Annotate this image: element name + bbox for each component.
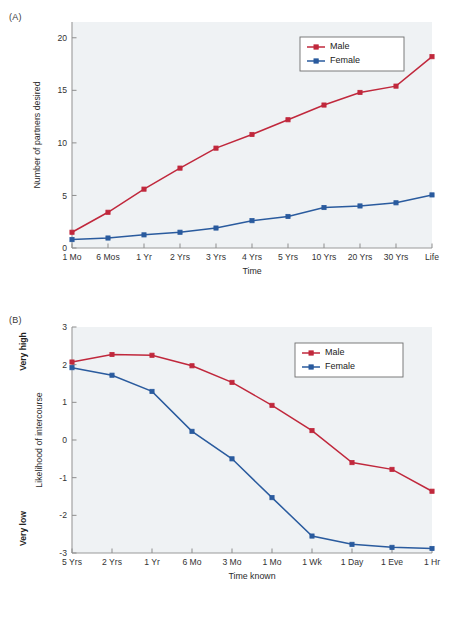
data-point-male: [430, 55, 434, 59]
data-point-male: [70, 360, 74, 364]
panel-a: (A) 051015201 Mo6 Mos1 Yr2 Yrs3 Yrs4 Yrs…: [0, 0, 449, 305]
data-point-male: [250, 132, 254, 136]
data-point-male: [358, 90, 362, 94]
y-tick-label: -2: [59, 510, 67, 520]
data-point-male: [70, 230, 74, 234]
legend-label-female: Female: [330, 55, 360, 65]
data-point-female: [150, 389, 154, 393]
y-tick-label: 5: [62, 191, 67, 201]
y-tick-label: -1: [59, 473, 67, 483]
data-point-male: [286, 118, 290, 122]
x-tick-label: 1 Yr: [144, 557, 160, 567]
data-point-female: [214, 226, 218, 230]
legend-label-female: Female: [325, 361, 355, 371]
panel-a-label: (A): [9, 12, 22, 22]
data-point-male: [390, 467, 394, 471]
y-tick-label: 0: [62, 435, 67, 445]
data-point-male: [214, 146, 218, 150]
chart-b-svg: 3210-1-2-35 Yrs2 Yrs1 Yr6 Mo3 Mo1 Mo1 Wk…: [0, 305, 449, 617]
data-point-male: [322, 103, 326, 107]
data-point-male: [350, 461, 354, 465]
y-tick-label: 2: [62, 360, 67, 370]
x-tick-label: 2 Yrs: [102, 557, 122, 567]
data-point-female: [110, 373, 114, 377]
data-point-male: [142, 187, 146, 191]
legend-box: [295, 343, 403, 377]
data-point-male: [106, 210, 110, 214]
data-point-female: [430, 546, 434, 550]
data-point-male: [394, 84, 398, 88]
data-point-female: [350, 542, 354, 546]
x-axis-title: Time known: [228, 571, 275, 581]
y-tick-label: 3: [62, 322, 67, 332]
data-point-male: [270, 403, 274, 407]
x-tick-label: Life: [425, 252, 439, 262]
data-point-male: [110, 352, 114, 356]
legend-marker-female: [309, 365, 313, 369]
y-anchor-high-label: Very high: [18, 332, 28, 371]
x-tick-label: 30 Yrs: [384, 252, 409, 262]
data-point-female: [250, 219, 254, 223]
data-point-female: [230, 457, 234, 461]
y-anchor-low-label: Very low: [18, 511, 28, 546]
x-tick-label: 1 Day: [341, 557, 364, 567]
data-point-male: [230, 380, 234, 384]
x-tick-label: 4 Yrs: [242, 252, 262, 262]
x-tick-label: 5 Yrs: [62, 557, 82, 567]
data-point-female: [70, 237, 74, 241]
x-tick-label: 5 Yrs: [278, 252, 298, 262]
x-tick-label: 3 Yrs: [206, 252, 226, 262]
data-point-female: [270, 496, 274, 500]
y-tick-label: 20: [57, 33, 67, 43]
y-tick-label: 1: [62, 397, 67, 407]
two-panel-line-chart-figure: (A) 051015201 Mo6 Mos1 Yr2 Yrs3 Yrs4 Yrs…: [0, 0, 449, 617]
x-tick-label: 1 Mo: [62, 252, 81, 262]
data-point-female: [394, 201, 398, 205]
data-point-female: [286, 214, 290, 218]
data-point-male: [190, 364, 194, 368]
data-point-female: [430, 193, 434, 197]
legend-label-male: Male: [330, 41, 350, 51]
x-tick-label: 10 Yrs: [312, 252, 337, 262]
data-point-female: [310, 534, 314, 538]
data-point-female: [142, 233, 146, 237]
data-point-female: [190, 429, 194, 433]
x-tick-label: 1 Wk: [302, 557, 322, 567]
panel-b-label: (B): [9, 315, 22, 325]
data-point-male: [310, 428, 314, 432]
legend-marker-female: [314, 59, 318, 63]
y-axis-title: Number of partners desired: [32, 81, 42, 188]
x-tick-label: 6 Mo: [182, 557, 201, 567]
x-tick-label: 6 Mos: [96, 252, 119, 262]
chart-a-svg: 051015201 Mo6 Mos1 Yr2 Yrs3 Yrs4 Yrs5 Yr…: [0, 0, 449, 305]
data-point-female: [358, 204, 362, 208]
data-point-male: [430, 489, 434, 493]
panel-b: (B) 3210-1-2-35 Yrs2 Yrs1 Yr6 Mo3 Mo1 Mo…: [0, 305, 449, 617]
data-point-male: [178, 166, 182, 170]
x-axis-title: Time: [242, 266, 261, 276]
legend-box: [300, 37, 404, 71]
x-tick-label: 2 Yrs: [170, 252, 190, 262]
y-axis-title: Likelihood of intercourse: [34, 392, 44, 487]
data-point-female: [70, 366, 74, 370]
data-point-male: [150, 353, 154, 357]
legend-marker-male: [314, 45, 318, 49]
x-tick-label: 20 Yrs: [348, 252, 373, 262]
y-tick-label: 10: [57, 138, 67, 148]
x-tick-label: 1 Yr: [136, 252, 152, 262]
data-point-female: [390, 545, 394, 549]
x-tick-label: 1 Mo: [262, 557, 281, 567]
x-tick-label: 3 Mo: [222, 557, 241, 567]
y-tick-label: 15: [57, 85, 67, 95]
x-tick-label: 1 Hr: [424, 557, 440, 567]
x-tick-label: 1 Eve: [381, 557, 403, 567]
data-point-female: [106, 236, 110, 240]
legend-marker-male: [309, 351, 313, 355]
data-point-female: [178, 230, 182, 234]
legend-label-male: Male: [325, 347, 345, 357]
data-point-female: [322, 205, 326, 209]
